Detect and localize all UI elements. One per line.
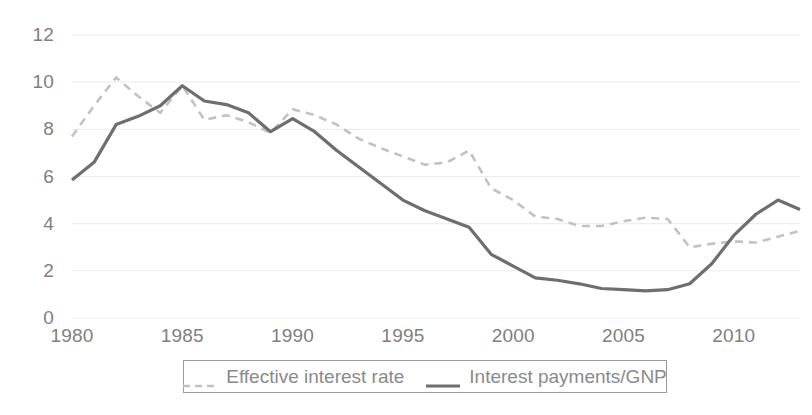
line-chart: 024681012 1980198519901995200020052010 E…: [0, 0, 812, 415]
chart-legend: Effective interest rate Interest payment…: [183, 360, 667, 393]
legend-label-interest-payments-gnp: Interest payments/GNP: [469, 367, 666, 386]
x-axis-tick-label: 2005: [589, 326, 659, 345]
y-axis-tick-label: 10: [8, 72, 54, 91]
y-axis-tick-label: 0: [8, 308, 54, 327]
legend-item-interest-payments-gnp[interactable]: Interest payments/GNP: [426, 367, 666, 386]
series-line-0: [72, 77, 800, 247]
legend-label-effective-interest-rate: Effective interest rate: [226, 367, 404, 386]
x-axis-tick-label: 2000: [478, 326, 548, 345]
y-axis-tick-label: 6: [8, 167, 54, 186]
data-series-group: [72, 77, 800, 290]
x-axis-tick-label: 1980: [37, 326, 107, 345]
legend-item-effective-interest-rate[interactable]: Effective interest rate: [183, 367, 404, 386]
chart-plot-area: [0, 0, 812, 415]
gridlines: [72, 35, 800, 318]
series-line-1: [72, 86, 800, 291]
x-axis-tick-label: 1985: [147, 326, 217, 345]
x-axis-tick-label: 2010: [699, 326, 769, 345]
solid-line-swatch: [426, 375, 460, 379]
y-axis-tick-label: 2: [8, 261, 54, 280]
dashed-line-swatch: [183, 375, 217, 379]
y-axis-tick-label: 8: [8, 119, 54, 138]
y-axis-tick-label: 4: [8, 214, 54, 233]
x-axis-tick-label: 1990: [258, 326, 328, 345]
x-axis-tick-label: 1995: [368, 326, 438, 345]
y-axis-tick-label: 12: [8, 25, 54, 44]
